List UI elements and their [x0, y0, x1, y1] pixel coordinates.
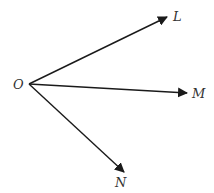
vector-ol	[29, 17, 167, 84]
vector-label-l: L	[172, 9, 182, 24]
vector-om	[29, 84, 187, 93]
vector-label-m: M	[191, 86, 206, 101]
vector-on	[29, 84, 124, 172]
vector-diagram: O L M N	[0, 0, 214, 193]
vector-label-n: N	[114, 175, 127, 190]
origin-label: O	[13, 77, 24, 92]
